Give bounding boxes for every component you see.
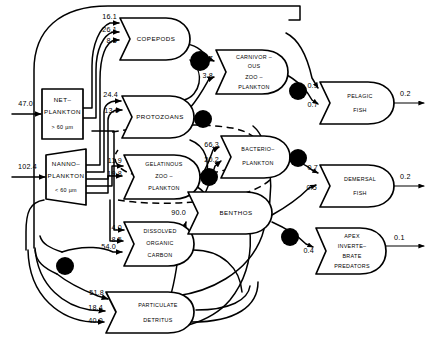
flow-value-detritus-1: 51.8 [89, 288, 104, 297]
node-netplankton-label-0: NET– [54, 96, 72, 103]
flow-value-pelagic-1: 0.9 [307, 81, 318, 90]
flow-value-copepods-1: 16.1 [102, 12, 117, 21]
input-value-nannoplankton: 102.4 [18, 162, 37, 171]
flow-path-left-loop-a [35, 250, 57, 274]
node-gelatinous-label-2: PLANKTON [148, 185, 179, 191]
flow-value-carnzoo-2: 3.8 [202, 71, 213, 80]
node-benthos[interactable]: BENTHOS [188, 192, 272, 234]
heat-sink-benthos [281, 228, 299, 246]
flow-value-protozoans-2: 13.0 [104, 106, 119, 115]
node-pelagicfish-shape [320, 82, 394, 124]
node-demersalfish-shape [320, 165, 394, 207]
node-carnzoo[interactable]: CARNIVOR – OUS ZOO – PLANKTON [216, 50, 288, 94]
node-pelagicfish-label-1: FISH [353, 107, 366, 113]
node-copepods-label-0: COPEPODS [137, 35, 176, 42]
node-nannoplankton-label-1: PLANKTON [48, 172, 85, 179]
flow-value-carnzoo-1: 8.7 [202, 54, 213, 63]
flow-path-pelagic-1 [286, 33, 318, 88]
node-protozoans-label-0: PROTOZOANS [136, 113, 184, 120]
node-netplankton[interactable]: NET– PLANKTON > 60 µm [42, 89, 83, 139]
ecosystem-flow-diagram: NET– PLANKTON > 60 µm NANNO– PLANKTON < … [0, 0, 427, 354]
node-apex[interactable]: APEX INVERTE– BRATE PREDATORS [316, 228, 386, 274]
node-netplankton-label-1: PLANKTON [44, 108, 81, 115]
flow-path-detritus-out-2 [192, 282, 258, 322]
flow-value-detritus-3: 40.0 [88, 316, 103, 325]
heat-sink-carnzoo [289, 82, 307, 100]
output-value-apex: 0.1 [394, 233, 405, 242]
flow-path-detritus-2 [35, 248, 105, 311]
node-detritus-shape [106, 292, 194, 333]
node-protozoans[interactable]: PROTOZOANS [122, 96, 194, 138]
node-detritus-label-1: DETRITUS [143, 317, 172, 323]
output-value-demersalfish: 0.2 [400, 172, 411, 181]
heat-sink-bacterio [289, 149, 307, 167]
node-apex-label-0: APEX [344, 233, 360, 239]
node-doc-label-2: CARBON [148, 252, 173, 258]
flow-value-benthos-1: 90.0 [171, 208, 186, 217]
flow-path-carnzoo-2 [190, 77, 214, 108]
heat-sink-gelatinous [200, 168, 218, 186]
node-netplankton-sublabel: > 60 µm [52, 124, 74, 130]
node-nannoplankton-sublabel: < 60 µm [55, 187, 77, 193]
node-bacterio[interactable]: BACTERIO– PLANKTON [221, 136, 290, 178]
node-bacterio-label-0: BACTERIO– [241, 146, 274, 152]
flow-value-doc-1: 4.0 [111, 223, 122, 232]
flow-value-pelagic-2: 0.7 [307, 100, 318, 109]
node-apex-label-1: INVERTE– [338, 243, 367, 249]
flow-value-demersal-1: 0.7 [307, 163, 318, 172]
flow-path-left-loop-c [26, 200, 44, 250]
flow-value-apex-1: 0.4 [303, 246, 314, 255]
node-carnzoo-label-1: OUS [248, 63, 261, 69]
node-doc-label-0: DISSOLVED [143, 228, 176, 234]
input-arrow-group: 47.0 102.4 [12, 99, 45, 177]
node-doc[interactable]: DISSOLVED ORGANIC CARBON [124, 222, 194, 266]
node-gelatinous-label-1: ZOO – [155, 173, 173, 179]
node-demersalfish-label-0: DEMERSAL [344, 176, 376, 182]
node-pelagicfish[interactable]: PELAGIC FISH [320, 82, 394, 124]
node-copepods[interactable]: COPEPODS [120, 18, 190, 60]
flow-value-detritus-2: 18.4 [88, 303, 103, 312]
flow-value-bacterio-1: 66.3 [204, 140, 219, 149]
node-demersalfish-label-1: FISH [353, 190, 366, 196]
node-detritus-label-0: PARTICULATE [138, 302, 178, 308]
node-carnzoo-label-3: PLANKTON [238, 84, 269, 90]
node-benthos-label-0: BENTHOS [219, 209, 252, 216]
flow-value-demersal-2: 0.5 [306, 183, 317, 192]
node-detritus[interactable]: PARTICULATE DETRITUS [106, 292, 194, 333]
heat-sink-detritus [56, 257, 74, 275]
output-value-pelagicfish: 0.2 [400, 89, 411, 98]
flow-value-gelatinous-1: 11.9 [108, 156, 122, 165]
node-bacterio-label-1: PLANKTON [242, 160, 273, 166]
input-value-netplankton: 47.0 [18, 99, 33, 108]
flow-diagram-canvas: NET– PLANKTON > 60 µm NANNO– PLANKTON < … [0, 0, 427, 354]
node-carnzoo-label-2: ZOO – [245, 74, 263, 80]
node-nannoplankton-label-0: NANNO– [52, 160, 81, 167]
node-carnzoo-label-0: CARNIVOR – [236, 54, 272, 60]
flow-value-copepods-2: 26.1 [102, 25, 117, 34]
node-demersalfish[interactable]: DEMERSAL FISH [320, 165, 394, 207]
heat-sink-protozoans [194, 110, 212, 128]
flow-value-protozoans-1: 24.4 [103, 90, 118, 99]
node-nannoplankton[interactable]: NANNO– PLANKTON < 60 µm [46, 149, 86, 205]
node-apex-label-3: PREDATORS [334, 263, 370, 269]
flow-value-gelatinous-2: 19.8 [107, 169, 122, 178]
flow-value-doc-3: 54.0 [101, 242, 116, 251]
flow-value-copepods-3: 8.5 [106, 36, 117, 45]
node-doc-label-1: ORGANIC [146, 240, 173, 246]
flow-path-doc-out [193, 250, 242, 292]
node-apex-label-2: BRATE [342, 253, 361, 259]
node-pelagicfish-label-0: PELAGIC [347, 93, 372, 99]
node-bacterio-shape [221, 136, 290, 178]
flow-path-left-loop-b [40, 236, 62, 252]
flow-value-bacterio-2: 20.2 [204, 155, 219, 164]
node-gelatinous-label-0: GELATINOUS [145, 161, 182, 167]
